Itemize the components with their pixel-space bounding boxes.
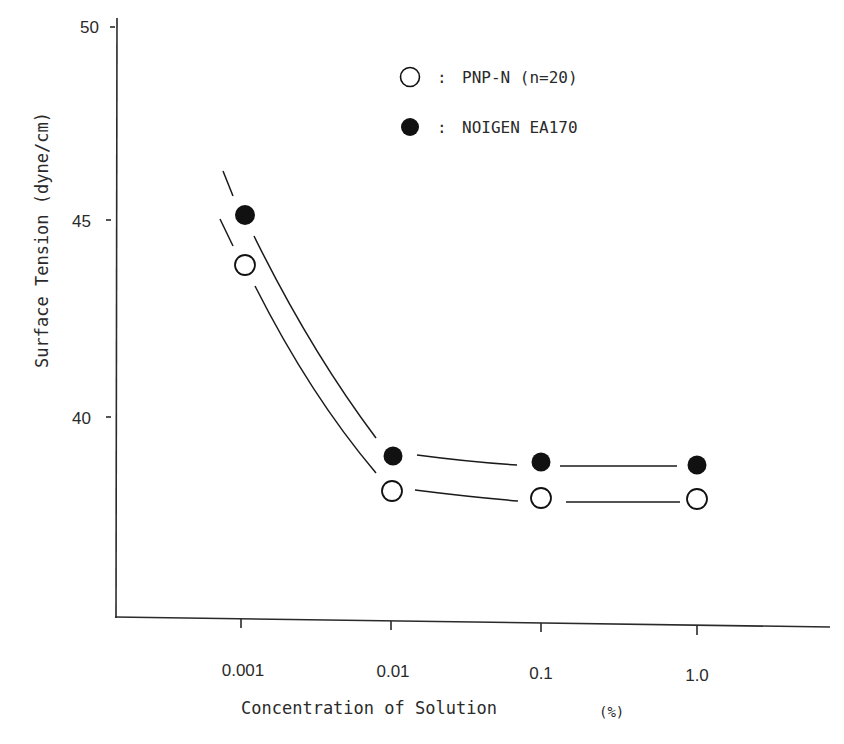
- filled-circle-icon: [384, 447, 403, 466]
- fit-curves: [220, 171, 680, 502]
- legend-separator: :: [437, 68, 447, 87]
- legend: : PNP-N (n=20) : NOIGEN EA170: [401, 68, 578, 138]
- open-circle-icon: [401, 68, 420, 87]
- legend-item-pnp-n: : PNP-N (n=20): [401, 68, 578, 88]
- surface-tension-chart: 50 45 40 0.001 0.01 0.1 1.0 Surface Tens…: [0, 0, 844, 744]
- y-tick-label-45: 45: [72, 212, 91, 231]
- open-circle-icon: [531, 488, 551, 508]
- y-tick-label-40: 40: [72, 409, 91, 428]
- x-axis-title-unit: (%): [599, 704, 624, 720]
- series-noigen-ea170: [235, 205, 707, 475]
- x-tick-label-001: 0.01: [376, 662, 409, 681]
- y-axis: [116, 18, 117, 618]
- y-tick-labels: 50 45 40: [72, 18, 99, 428]
- series-pnp-n: [235, 255, 707, 509]
- legend-label-pnp-n: PNP-N (n=20): [462, 68, 578, 87]
- open-circle-icon: [235, 255, 255, 275]
- noigen-curve-mid: [417, 455, 517, 465]
- open-circle-icon: [687, 489, 707, 509]
- x-tick-label-01: 0.1: [529, 664, 553, 683]
- legend-separator: :: [437, 118, 447, 137]
- filled-circle-icon: [401, 118, 419, 136]
- axes: [106, 18, 830, 635]
- filled-circle-icon: [532, 453, 551, 472]
- pnpn-curve-tail: [220, 219, 233, 246]
- pnpn-curve-drop: [255, 286, 376, 473]
- x-axis-title: Concentration of Solution (%): [241, 698, 624, 720]
- y-axis-title: Surface Tension (dyne/cm): [32, 112, 52, 368]
- x-tick-label-1: 1.0: [685, 666, 709, 685]
- legend-label-noigen: NOIGEN EA170: [462, 118, 578, 137]
- noigen-curve-drop: [254, 236, 376, 438]
- x-axis: [115, 617, 830, 627]
- open-circle-icon: [382, 481, 402, 501]
- filled-circle-icon: [688, 456, 707, 475]
- filled-circle-icon: [235, 205, 255, 225]
- noigen-curve-tail: [223, 171, 233, 196]
- legend-item-noigen: : NOIGEN EA170: [401, 118, 578, 137]
- x-axis-title-main: Concentration of Solution: [241, 698, 497, 718]
- pnpn-curve-mid: [415, 490, 518, 501]
- y-tick-label-50: 50: [80, 18, 99, 37]
- x-tick-labels: 0.001 0.01 0.1 1.0: [222, 661, 709, 685]
- x-tick-label-0001: 0.001: [222, 661, 265, 680]
